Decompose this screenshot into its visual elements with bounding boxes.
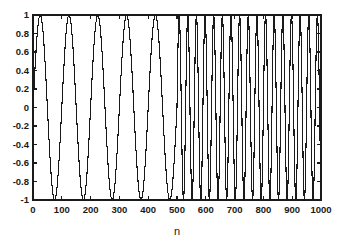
y-tick-label: 0.6 bbox=[16, 47, 29, 57]
y-tick-label: -1 bbox=[21, 195, 29, 205]
y-tick-label: 1 bbox=[24, 10, 29, 20]
x-tick-label: 500 bbox=[169, 205, 185, 215]
y-tick-label: 0.2 bbox=[16, 84, 29, 94]
figure-canvas: -1-0.8-0.6-0.4-0.200.20.40.60.81 0100200… bbox=[0, 0, 339, 249]
x-tick-label: 0 bbox=[30, 205, 35, 215]
x-tick-label: 700 bbox=[227, 205, 243, 215]
y-tick-label: -0.2 bbox=[13, 121, 29, 131]
x-tick-label: 900 bbox=[284, 205, 300, 215]
x-tick-label: 600 bbox=[198, 205, 214, 215]
y-tick-label: 0 bbox=[24, 103, 29, 113]
x-tick-label: 200 bbox=[83, 205, 99, 215]
x-tick-label: 400 bbox=[140, 205, 156, 215]
y-tick-label: -0.8 bbox=[13, 177, 29, 187]
x-tick-label: 300 bbox=[111, 205, 127, 215]
x-axis-label: n bbox=[174, 226, 180, 237]
y-tick-label: -0.4 bbox=[13, 140, 29, 150]
y-tick-label: -0.6 bbox=[13, 158, 29, 168]
x-tick-label: 800 bbox=[255, 205, 271, 215]
y-tick-label: 0.8 bbox=[16, 29, 29, 39]
x-tick-label: 100 bbox=[54, 205, 70, 215]
x-tick-label: 1000 bbox=[310, 205, 331, 215]
y-tick-label: 0.4 bbox=[16, 66, 29, 76]
